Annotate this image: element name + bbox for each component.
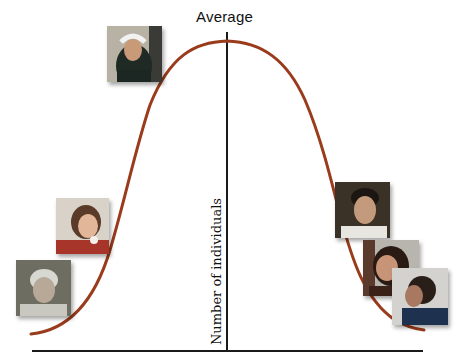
young-man-portrait-icon bbox=[335, 182, 390, 238]
y-axis-label: Number of individuals bbox=[209, 198, 224, 345]
photo-woman-profile bbox=[392, 268, 448, 325]
elderly-man-portrait-icon bbox=[16, 260, 71, 316]
photo-young-man bbox=[335, 182, 390, 238]
girl-portrait-icon bbox=[107, 26, 162, 82]
teen-girl-portrait-icon bbox=[56, 198, 109, 254]
woman-profile-portrait-icon bbox=[392, 268, 448, 325]
photo-girl-headband bbox=[107, 26, 162, 82]
bell-curve-diagram: Average Number of individuals bbox=[0, 0, 462, 359]
photo-elderly-man bbox=[16, 260, 71, 316]
photo-teen-girl bbox=[56, 198, 109, 254]
average-label: Average bbox=[196, 8, 253, 25]
